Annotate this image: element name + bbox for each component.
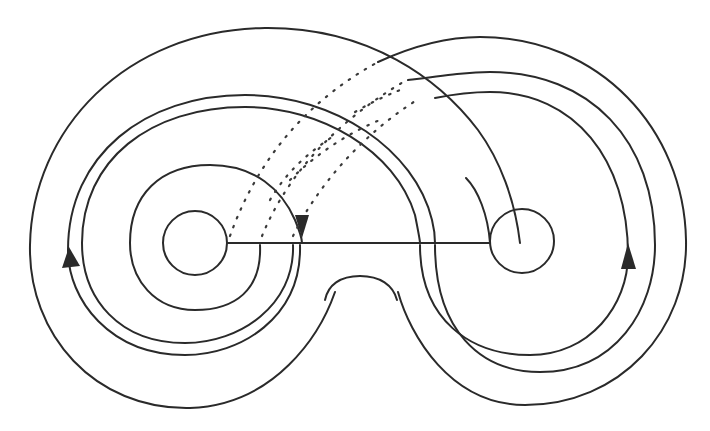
right-arrow-icon [621,243,636,269]
left-outer-curve [68,95,435,355]
outer-boundary [30,28,686,408]
dotted-arc-2 [262,81,405,236]
right-inner-curve [420,92,628,355]
left-hole [163,211,227,275]
dotted-arc-6 [355,88,405,112]
dotted-arc-1 [230,62,378,236]
left-arrow-icon [62,247,80,268]
left-middle-curve [82,107,420,343]
left-inner-curve [130,165,302,310]
genus-two-surface-diagram [0,0,710,431]
neck-bump [325,276,397,300]
right-hole [490,209,554,273]
right-middle-curve [408,72,655,372]
diagram-canvas [0,0,710,431]
